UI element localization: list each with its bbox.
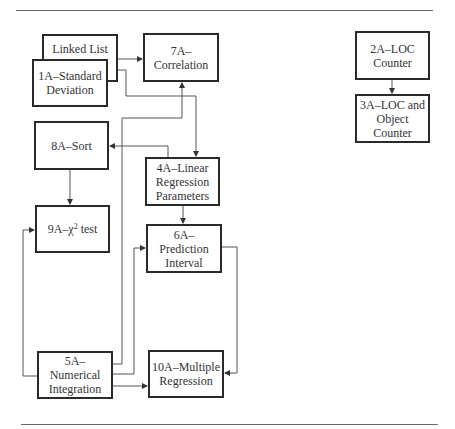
node-5a-label-line1: 5A–Numerical bbox=[41, 354, 109, 382]
node-9a-label-sup: 2 bbox=[74, 222, 78, 231]
node-6a-label-line1: 6A–Prediction bbox=[150, 228, 218, 256]
node-2a-label-line2: Counter bbox=[373, 56, 412, 70]
node-9a-label-suffix: test bbox=[78, 222, 98, 236]
node-4a-label-line2: Regression bbox=[156, 175, 209, 189]
node-linked-list-label: Linked List bbox=[52, 42, 108, 56]
node-6a-label-line2: Interval bbox=[165, 256, 202, 270]
node-3a-loc-object-counter: 3A–LOC and Object Counter bbox=[355, 94, 430, 143]
node-7a-label: 7A–Correlation bbox=[147, 44, 215, 72]
node-4a-label-line3: Parameters bbox=[156, 189, 209, 203]
edge-4a-8a bbox=[110, 146, 168, 157]
node-10a-multiple-regression: 10A–Multiple Regression bbox=[148, 350, 224, 398]
node-10a-label-line2: Regression bbox=[159, 374, 212, 388]
node-3a-label-line1: 3A–LOC and bbox=[360, 98, 425, 112]
edge-6a-10a bbox=[222, 247, 237, 373]
node-2a-loc-counter: 2A–LOC Counter bbox=[355, 31, 430, 80]
node-5a-label-line2: Integration bbox=[49, 382, 102, 396]
node-9a-label-prefix: 9A–χ bbox=[48, 222, 74, 236]
edge-1a-4a bbox=[118, 70, 196, 156]
node-3a-label-line2: Object Counter bbox=[359, 112, 426, 140]
node-5a-numerical-integration: 5A–Numerical Integration bbox=[37, 351, 113, 399]
node-1a-label-line1: 1A–Standard bbox=[38, 69, 101, 83]
node-1a-standard-deviation: 1A–Standard Deviation bbox=[32, 59, 108, 107]
node-1a-label-line2: Deviation bbox=[46, 83, 93, 97]
node-6a-prediction-interval: 6A–Prediction Interval bbox=[146, 224, 222, 273]
edge-5a-6a bbox=[113, 248, 145, 374]
node-8a-label: 8A–Sort bbox=[51, 139, 92, 153]
node-4a-label-line1: 4A–Linear bbox=[157, 161, 209, 175]
node-8a-sort: 8A–Sort bbox=[34, 121, 109, 170]
node-10a-label-line1: 10A–Multiple bbox=[152, 360, 220, 374]
node-9a-label: 9A–χ2 test bbox=[48, 222, 98, 236]
node-9a-chi-squared-test: 9A–χ2 test bbox=[35, 205, 110, 253]
node-2a-label-line1: 2A–LOC bbox=[370, 42, 415, 56]
node-4a-linear-regression: 4A–Linear Regression Parameters bbox=[145, 157, 220, 206]
node-7a-correlation: 7A–Correlation bbox=[143, 33, 219, 82]
